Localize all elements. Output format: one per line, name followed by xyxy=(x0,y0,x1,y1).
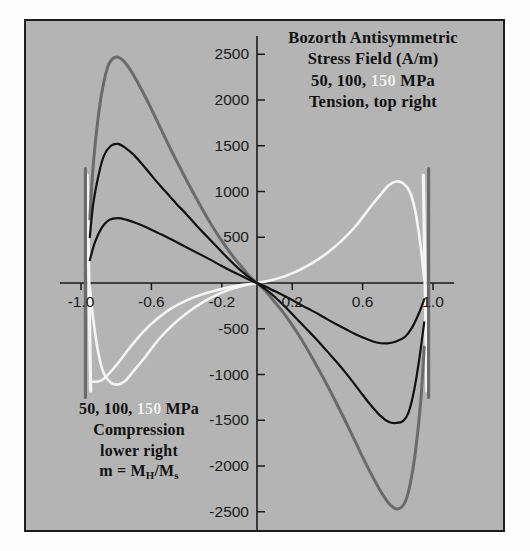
x-tick-label: 0.6 xyxy=(341,293,385,311)
title-stress-list: 50, 100, xyxy=(311,71,366,90)
x-tick-label: -0.2 xyxy=(200,293,244,311)
y-tick-label: -500 xyxy=(189,320,249,338)
chart-series-line xyxy=(90,144,257,283)
chart-frame: Bozorth Antisymmetric Stress Field (A/m)… xyxy=(24,19,505,532)
title-line-2: Stress Field (A/m) xyxy=(244,48,502,69)
note-formula-sub-s: s xyxy=(174,469,178,481)
y-tick-label: -1500 xyxy=(189,411,249,429)
x-tick-label: -0.6 xyxy=(129,293,173,311)
chart-title-block: Bozorth Antisymmetric Stress Field (A/m)… xyxy=(244,27,502,113)
y-tick-label: 2000 xyxy=(189,91,249,109)
title-line-1: Bozorth Antisymmetric xyxy=(244,27,502,48)
note-formula-prefix: m = M xyxy=(99,462,146,479)
note-formula-mid: /M xyxy=(154,462,174,479)
y-tick-label: 1500 xyxy=(189,137,249,155)
x-tick-label: 0.2 xyxy=(270,293,314,311)
y-tick-label: 500 xyxy=(189,228,249,246)
figure-page: Bozorth Antisymmetric Stress Field (A/m)… xyxy=(0,0,530,551)
y-tick-label: 1000 xyxy=(189,183,249,201)
note-stress-highlight: 150 xyxy=(137,400,162,417)
y-tick-label: -1000 xyxy=(189,366,249,384)
title-line-4: Tension, top right xyxy=(244,91,502,112)
y-tick-label: -2500 xyxy=(189,503,249,521)
y-tick-label: 2500 xyxy=(189,45,249,63)
title-stress-highlight: 150 xyxy=(371,71,396,90)
x-tick-label: -1.0 xyxy=(59,293,103,311)
title-stress-unit: MPa xyxy=(400,71,435,90)
note-stress-list: 50, 100, xyxy=(79,400,133,417)
x-tick-label: 1.0 xyxy=(411,293,455,311)
chart-series-line xyxy=(257,283,424,509)
title-line-3: 50, 100, 150 MPa xyxy=(244,70,502,91)
y-tick-label: -2000 xyxy=(189,457,249,475)
